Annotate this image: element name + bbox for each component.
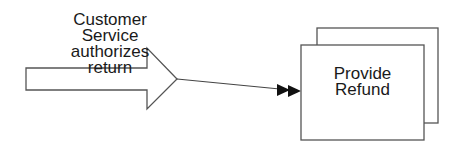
process-label-line: Refund	[301, 82, 424, 98]
event-label-line: return	[40, 60, 180, 76]
arrowhead-2-icon	[288, 85, 301, 97]
diagram-canvas: Customer Service authorizes return Provi…	[0, 0, 463, 149]
event-label: Customer Service authorizes return	[40, 12, 180, 76]
connector-line[interactable]	[177, 79, 290, 90]
process-label: Provide Refund	[301, 66, 424, 98]
